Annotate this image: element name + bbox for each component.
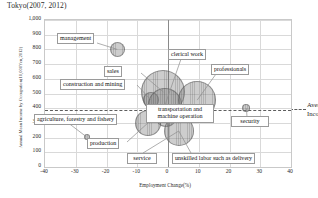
y-axis-label: Annual Mean Income by Occupation(10,000Y…	[18, 18, 23, 178]
x-tick-label: -10	[124, 168, 148, 174]
average-income-label-line1: Average	[307, 101, 318, 110]
page-title: Tokyo(2007, 2012)	[7, 1, 67, 10]
callout-security: security	[231, 116, 269, 127]
callout-agriculture: agriculture, forestry and fishery	[34, 114, 117, 125]
callout-transportation: transportation andmachine operation	[146, 104, 214, 123]
y-tick-label: 700	[14, 59, 41, 65]
x-tick-label: -20	[94, 168, 118, 174]
callout-transportation-line1: transportation and	[158, 106, 202, 112]
callout-transportation-line2: machine operation	[157, 113, 202, 119]
callout-sales: sales	[104, 66, 122, 77]
y-tick-label: 100	[14, 147, 41, 153]
y-tick-label: 1,000	[14, 15, 41, 21]
y-tick-label: 400	[14, 103, 41, 109]
x-tick-label: -40	[32, 168, 56, 174]
y-tick-label: 200	[14, 133, 41, 139]
callout-unskilled-labor: unskilled labor such as delivery	[172, 153, 255, 164]
y-tick-label: 500	[14, 89, 41, 95]
callout-service: service	[127, 153, 157, 164]
average-income-line-extension	[290, 109, 306, 110]
x-tick-label: -30	[63, 168, 87, 174]
gridline-vertical	[137, 20, 138, 167]
callout-production: production	[87, 138, 119, 149]
bubble-management	[110, 42, 125, 57]
x-tick-label: 40	[278, 168, 302, 174]
average-income-label-line2: Income	[307, 110, 318, 119]
callout-professionals: professionals	[211, 64, 249, 75]
x-tick-label: 0	[155, 168, 179, 174]
x-axis-label: Employment Change(%)	[55, 182, 275, 188]
callout-construction: construction and mining	[60, 79, 125, 90]
gridline-vertical	[260, 20, 261, 167]
y-tick-label: 900	[14, 30, 41, 36]
x-tick-label: 10	[186, 168, 210, 174]
y-tick-label: 600	[14, 74, 41, 80]
x-tick-label: 30	[247, 168, 271, 174]
y-tick-label: 800	[14, 44, 41, 50]
gridline-vertical	[230, 20, 231, 167]
x-tick-label: 20	[217, 168, 241, 174]
bubble-chart: Tokyo(2007, 2012) Annual Mean Income by …	[0, 0, 318, 198]
callout-clerical-work: clerical work	[168, 49, 206, 60]
callout-management: management	[57, 33, 94, 44]
